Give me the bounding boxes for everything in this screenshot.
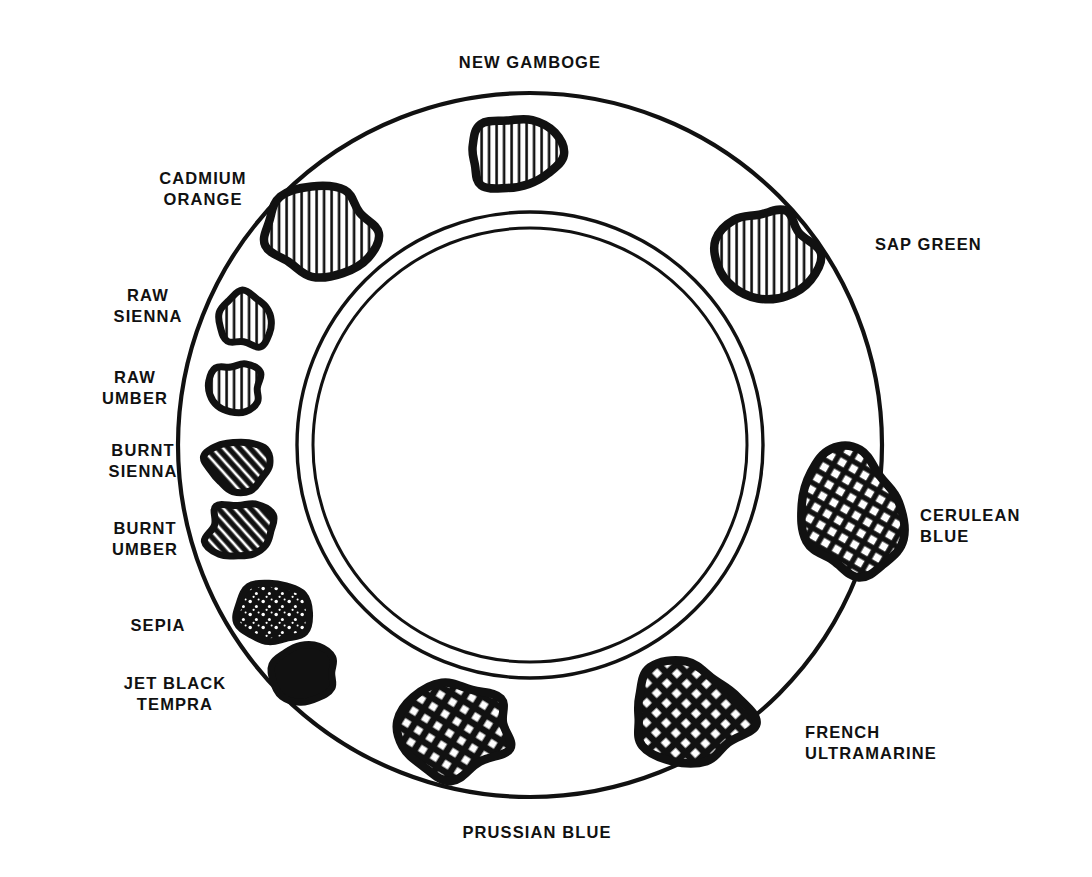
inner-ring-outer-circle [297, 212, 763, 678]
pigment-label-burnt-umber: BURNT UMBER [112, 518, 178, 560]
pigment-label-sap-green: SAP GREEN [875, 234, 982, 255]
blob-cadmium-orange-shape [264, 186, 379, 278]
pigment-label-cerulean-blue: CERULEAN BLUE [920, 505, 1020, 547]
inner-ring-inner-circle [313, 228, 747, 662]
blob-cadmium-orange [264, 186, 379, 278]
blob-burnt-umber-shape [204, 504, 274, 556]
blob-burnt-umber [204, 504, 274, 556]
paint-blobs [203, 119, 913, 786]
pigment-label-raw-umber: RAW UMBER [102, 367, 168, 409]
blob-new-gamboge-shape [472, 119, 564, 189]
pigment-label-jet-black-tempra: JET BLACK TEMPRA [124, 673, 227, 715]
blob-new-gamboge [472, 119, 564, 189]
palette-diagram: NEW GAMBOGECADMIUM ORANGERAW SIENNARAW U… [0, 0, 1092, 877]
blob-cerulean-blue [787, 436, 914, 587]
blob-prussian-blue [392, 676, 514, 786]
pigment-label-new-gamboge: NEW GAMBOGE [459, 52, 601, 73]
blob-burnt-sienna-shape [203, 442, 270, 493]
pigment-label-prussian-blue: PRUSSIAN BLUE [462, 822, 611, 843]
blob-burnt-sienna [203, 442, 270, 493]
blob-cerulean-blue-shape [787, 436, 914, 587]
blob-french-ultramarine-shape [631, 655, 764, 772]
blob-raw-umber [208, 364, 261, 413]
blob-raw-sienna-shape [219, 290, 272, 347]
pigment-label-burnt-sienna: BURNT SIENNA [109, 440, 178, 482]
blob-raw-umber-shape [208, 364, 261, 413]
blob-sepia [236, 583, 310, 641]
blob-raw-sienna [219, 290, 272, 347]
pigment-label-raw-sienna: RAW SIENNA [114, 285, 183, 327]
blob-french-ultramarine [631, 655, 764, 772]
blob-jet-black-tempra [271, 644, 334, 702]
blob-jet-black-tempra-shape [271, 644, 334, 702]
blob-sepia-shape [236, 583, 310, 641]
pigment-label-cadmium-orange: CADMIUM ORANGE [159, 168, 246, 210]
blob-prussian-blue-shape [392, 676, 514, 786]
pigment-label-french-ultramarine: FRENCH ULTRAMARINE [805, 722, 937, 764]
pigment-label-sepia: SEPIA [130, 615, 185, 636]
